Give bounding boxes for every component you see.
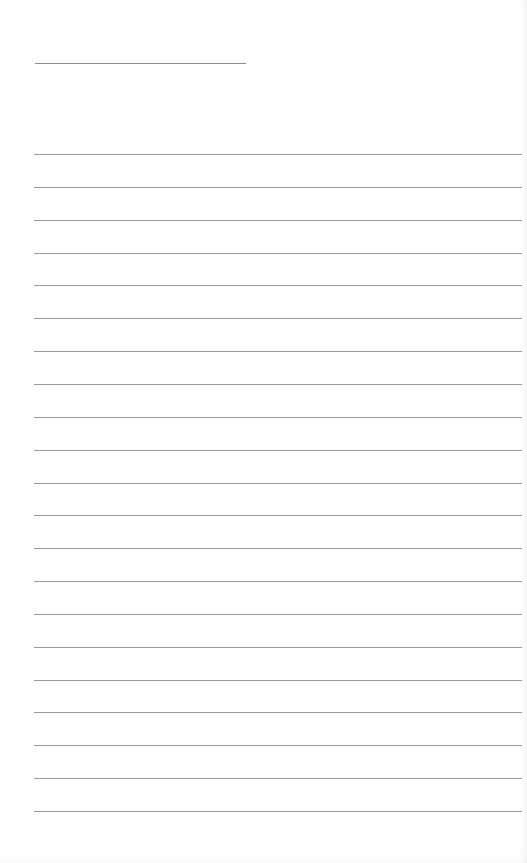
ruled-line xyxy=(34,614,522,615)
ruled-line xyxy=(34,745,522,746)
ruled-line xyxy=(34,647,522,648)
ruled-line xyxy=(34,450,522,451)
ruled-line xyxy=(34,318,522,319)
lined-paper xyxy=(0,0,527,863)
ruled-line xyxy=(34,351,522,352)
ruled-line xyxy=(34,515,522,516)
title-line xyxy=(35,63,246,64)
ruled-line xyxy=(34,285,522,286)
ruled-line xyxy=(34,220,522,221)
ruled-line xyxy=(34,811,522,812)
ruled-line xyxy=(34,187,522,188)
ruled-line xyxy=(34,483,522,484)
ruled-line xyxy=(34,680,522,681)
ruled-line xyxy=(34,548,522,549)
ruled-line xyxy=(34,581,522,582)
ruled-line xyxy=(34,778,522,779)
ruled-line xyxy=(34,253,522,254)
ruled-line xyxy=(34,154,522,155)
ruled-line xyxy=(34,712,522,713)
ruled-line xyxy=(34,417,522,418)
ruled-line xyxy=(34,384,522,385)
